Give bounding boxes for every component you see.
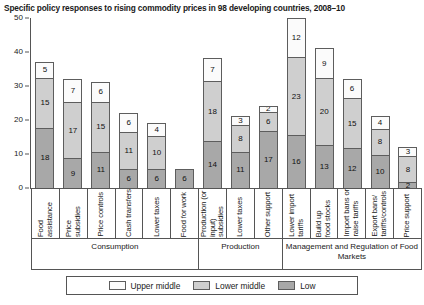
category-label: Price subsidies [65, 189, 82, 237]
bar-segment-lower: 15 [35, 78, 54, 129]
y-axis: 01020304050 [0, 18, 30, 188]
legend-label: Upper middle [131, 281, 181, 291]
bar-segment-low: 6 [119, 169, 138, 189]
bar-segment-low: 18 [35, 128, 54, 189]
bar-slot: 71814 [199, 18, 227, 188]
bar-slot: 7179 [59, 18, 87, 188]
legend-swatch-lower [193, 281, 210, 290]
legend-item[interactable]: Upper middle [109, 281, 181, 291]
stacked-bar[interactable]: 6116 [119, 113, 138, 188]
bar-slot: 61511 [87, 18, 115, 188]
category-label-cell: Import bans or raise tariffs [338, 189, 366, 238]
bar-segment-lower: 10 [147, 136, 166, 170]
stacked-bar[interactable]: 7179 [63, 79, 82, 188]
group-labels: ConsumptionProductionManagement and Regu… [31, 239, 422, 270]
bar-segment-upper: 7 [63, 79, 82, 103]
bar-segment-upper: 4 [371, 116, 390, 130]
group-label: Management and Regulation of Food Market… [283, 239, 422, 270]
bar-segment-upper: 4 [147, 123, 166, 137]
bar-slot: 122316 [282, 18, 310, 188]
category-label-cell: Food assistance [32, 189, 60, 238]
category-label-cell: Build up food stocks [311, 189, 339, 238]
y-axis-tick-mark [25, 154, 29, 155]
y-axis-tick-mark [25, 188, 29, 189]
bar-segment-lower: 15 [343, 98, 362, 149]
category-labels: Food assistancePrice subsidiesPrice cont… [31, 189, 422, 239]
category-label: Food for work [180, 192, 189, 237]
bar-segment-lower: 18 [203, 81, 222, 142]
group-label: Consumption [31, 239, 199, 270]
category-label-cell: Cash transfers [116, 189, 144, 238]
bar-segment-lower: 20 [315, 78, 334, 146]
bar-segment-low: 12 [343, 148, 362, 189]
category-label: Cash transfers [125, 189, 134, 237]
legend-swatch-low [278, 281, 295, 290]
y-axis-tick-label: 40 [14, 48, 23, 56]
y-axis-tick-label: 30 [14, 82, 23, 90]
bar-segment-low: 11 [91, 152, 110, 189]
bars-container: 5151871796151161164106671814381126171223… [31, 18, 422, 188]
category-label-cell: Price subsidies [60, 189, 88, 238]
bar-segment-upper: 6 [91, 82, 110, 102]
stacked-bar[interactable]: 382 [398, 147, 417, 188]
category-label: Price support [403, 194, 412, 237]
category-label-cell: Price support [394, 189, 421, 238]
category-label: Lower import tariffs [288, 194, 305, 237]
category-label-cell: Export bans/ tariffs/controls [366, 189, 394, 238]
category-label: Other support [264, 192, 273, 237]
stacked-bar[interactable]: 4810 [371, 116, 390, 188]
legend-label: Lower middle [215, 281, 265, 291]
y-axis-tick-label: 10 [14, 150, 23, 158]
bar-segment-lower: 23 [287, 57, 306, 135]
stacked-bar[interactable]: 4106 [147, 123, 166, 188]
bar-segment-lower: 17 [63, 102, 82, 160]
bar-segment-low: 6 [175, 169, 194, 189]
category-label-cell: Lower taxes [143, 189, 171, 238]
category-label: Lower taxes [153, 197, 162, 237]
bar-segment-upper: 7 [203, 58, 222, 82]
bar-segment-lower: 8 [371, 129, 390, 156]
bar-segment-lower: 6 [259, 112, 278, 132]
stacked-bar[interactable]: 51518 [35, 62, 54, 188]
category-label: Production (or input) subsidies [200, 189, 226, 237]
category-label-cell: Price controls [88, 189, 116, 238]
bar-slot: 61512 [338, 18, 366, 188]
y-axis-tick-mark [25, 52, 29, 53]
category-label: Build up food stocks [315, 200, 332, 237]
stacked-bar[interactable]: 92013 [315, 48, 334, 188]
bar-segment-low: 6 [147, 169, 166, 189]
stacked-bar[interactable]: 3811 [231, 116, 250, 188]
bar-segment-low: 11 [231, 152, 250, 189]
stacked-bar[interactable]: 71814 [203, 58, 222, 188]
bar-segment-lower: 15 [91, 102, 110, 153]
category-label-cell: Lower taxes [227, 189, 255, 238]
category-label-cell: Lower import tariffs [283, 189, 311, 238]
stacked-bar[interactable]: 61511 [91, 82, 110, 188]
bar-slot: 382 [394, 18, 422, 188]
bar-segment-lower: 8 [231, 125, 250, 152]
y-axis-tick-mark [25, 18, 29, 19]
group-label: Production [199, 239, 283, 270]
category-label: Food assistance [37, 189, 54, 237]
legend-item[interactable]: Lower middle [193, 281, 265, 291]
y-axis-tick-mark [25, 86, 29, 87]
category-label-cell: Food for work [171, 189, 199, 238]
bar-segment-upper: 12 [287, 18, 306, 59]
bar-slot: 92013 [310, 18, 338, 188]
stacked-bar[interactable]: 122316 [287, 18, 306, 188]
plot-area: 01020304050 5151871796151161164106671814… [0, 18, 424, 270]
category-label: Lower taxes [236, 197, 245, 237]
bar-slot: 6116 [115, 18, 143, 188]
stacked-bar[interactable]: 61512 [343, 79, 362, 188]
bar-slot: 3811 [226, 18, 254, 188]
stacked-bar[interactable]: 2617 [259, 106, 278, 188]
legend-item[interactable]: Low [278, 281, 315, 291]
category-label: Export bans/ tariffs/controls [371, 191, 388, 237]
y-axis-tick-label: 50 [14, 14, 23, 22]
bar-segment-low: 9 [63, 158, 82, 189]
bar-segment-upper: 6 [343, 79, 362, 99]
stacked-bar[interactable]: 6 [175, 169, 194, 188]
bar-segment-low: 14 [203, 141, 222, 189]
bar-segment-lower: 11 [119, 132, 138, 169]
y-axis-tick-label: 20 [14, 116, 23, 124]
